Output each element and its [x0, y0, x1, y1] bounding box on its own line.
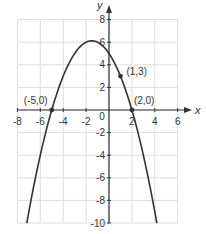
x-tick-label: 6: [175, 116, 181, 127]
x-axis-arrow-icon: [184, 107, 192, 113]
x-tick-label: -4: [59, 116, 68, 127]
y-axis-label: y: [96, 0, 104, 11]
y-axis-arrow-icon: [106, 5, 112, 13]
y-tick-label: -8: [96, 195, 105, 206]
x-tick-label: -6: [36, 116, 45, 127]
y-tick-label: 2: [99, 82, 105, 93]
point-marker: [118, 74, 123, 79]
point-label: (-5,0): [24, 95, 48, 106]
labeled-points: (-5,0)(1,3)(2,0): [24, 66, 155, 112]
y-tick-label: -10: [91, 218, 106, 229]
y-tick-label: 4: [99, 59, 105, 70]
parabola-graph: x y -8-6-4-202468642-2-4-6-8-10 (-5,0)(1…: [0, 0, 206, 234]
y-tick-label: 8: [99, 14, 105, 25]
point-label: (2,0): [134, 95, 155, 106]
point-marker: [49, 108, 54, 113]
axes: x y: [17, 0, 201, 223]
y-tick-label: -2: [96, 127, 105, 138]
tick-labels: -8-6-4-202468642-2-4-6-8-10: [13, 14, 181, 228]
x-tick-label: 0: [99, 111, 105, 122]
x-axis-label: x: [194, 104, 201, 116]
point-label: (1,3): [126, 66, 147, 77]
y-tick-label: -6: [96, 172, 105, 183]
x-tick-label: -2: [82, 116, 91, 127]
y-tick-label: -4: [96, 150, 105, 161]
point-marker: [130, 108, 135, 113]
x-tick-label: -8: [13, 116, 22, 127]
x-tick-label: 4: [152, 116, 158, 127]
